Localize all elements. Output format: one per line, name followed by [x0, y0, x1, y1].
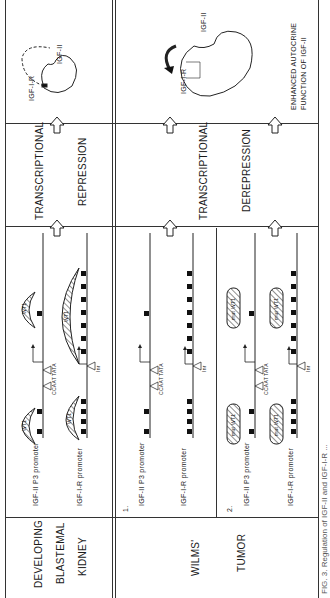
flow-arrows — [0, 0, 330, 598]
figure-landscape: DEVELOPING BLASTEMAL KIDNEY WILMS' TUMOR… — [0, 0, 330, 598]
figure-caption: FIG. 3. Regulation of IGF-II and IGF-I-R… — [320, 444, 329, 594]
arrow-right-icon — [268, 117, 282, 133]
arrow-right-icon — [163, 117, 177, 133]
ligand-label-dev: IGF-II — [56, 44, 63, 64]
ligand-label-wilms: IGF-II — [200, 12, 207, 32]
tumor-cell-icon — [164, 31, 252, 96]
arrow-right-icon — [268, 220, 282, 236]
receptor-label-wilms: IGF-I-R — [180, 69, 187, 94]
arrow-right-icon — [50, 117, 64, 133]
arrow-right-icon — [163, 220, 177, 236]
outcome-description-2: FUNCTION OF IGF-II — [300, 37, 307, 110]
outcome-description-1: ENHANCED AUTOCRINE — [290, 23, 297, 110]
receptor-label-dev: IGF-I-R — [28, 76, 35, 101]
arrow-right-icon — [50, 220, 64, 236]
